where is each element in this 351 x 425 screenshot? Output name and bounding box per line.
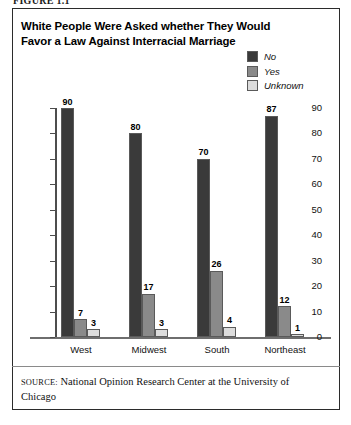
bar-rect <box>87 329 100 337</box>
legend-item-no: No <box>247 50 304 63</box>
bar-west-unknown: 3 <box>87 108 100 337</box>
bar-value-label: 26 <box>211 259 221 269</box>
bar-south-no: 70 <box>197 108 210 337</box>
bar-northeast-unknown: 1 <box>291 108 304 337</box>
legend-label: Unknown <box>264 80 304 91</box>
bar-value-label: 3 <box>91 318 96 328</box>
legend-swatch-icon <box>247 80 258 91</box>
y-tick-mark <box>50 337 55 338</box>
bar-rect <box>197 159 210 337</box>
bar-south-yes: 26 <box>210 108 223 337</box>
bar-rect <box>142 294 155 337</box>
legend-label: Yes <box>264 66 280 77</box>
bar-rect <box>155 329 168 337</box>
y-tick-mark <box>50 312 55 313</box>
x-tick-label: West <box>70 344 91 355</box>
bar-value-label: 90 <box>62 97 72 107</box>
bar-rect <box>291 334 304 337</box>
bar-rect <box>61 108 74 337</box>
y-tick-label: 0 <box>317 331 322 342</box>
y-tick-mark <box>50 108 55 109</box>
legend-label: No <box>264 51 276 62</box>
bar-rect <box>74 319 87 337</box>
bar-value-label: 12 <box>279 295 289 305</box>
source-note: SOURCE: National Opinion Research Center… <box>21 375 313 403</box>
bar-value-label: 1 <box>295 323 300 333</box>
y-tick-label: 80 <box>311 127 322 138</box>
plot-area: 0102030405060708090 9073West80173Midwest… <box>55 108 331 337</box>
bar-south-unknown: 4 <box>223 108 236 337</box>
bar-northeast-no: 87 <box>265 108 278 337</box>
y-tick-mark <box>50 286 55 287</box>
y-tick-label: 60 <box>311 178 322 189</box>
y-tick-label: 10 <box>311 306 322 317</box>
y-tick-mark <box>50 184 55 185</box>
y-tick-label: 40 <box>311 229 322 240</box>
legend-swatch-icon <box>247 66 258 77</box>
bar-value-label: 17 <box>143 282 153 292</box>
source-divider <box>12 366 340 367</box>
y-tick-label: 20 <box>311 280 322 291</box>
bar-value-label: 87 <box>266 104 276 114</box>
bar-west-yes: 7 <box>74 108 87 337</box>
y-tick-label: 30 <box>311 255 322 266</box>
bar-rect <box>210 271 223 337</box>
source-label: SOURCE: <box>21 378 58 387</box>
bar-value-label: 80 <box>130 122 140 132</box>
y-tick-label: 70 <box>311 153 322 164</box>
bar-value-label: 4 <box>227 315 232 325</box>
page-title: White People Were Asked whether They Wou… <box>21 19 293 48</box>
y-tick-mark <box>50 261 55 262</box>
bar-northeast-yes: 12 <box>278 108 291 337</box>
x-tick-label: Northeast <box>264 344 305 355</box>
x-axis-line <box>30 337 331 339</box>
bar-midwest-unknown: 3 <box>155 108 168 337</box>
bar-rect <box>265 116 278 337</box>
legend-item-unknown: Unknown <box>247 79 304 92</box>
x-tick-label: Midwest <box>132 344 167 355</box>
bar-midwest-yes: 17 <box>142 108 155 337</box>
bar-value-label: 3 <box>159 318 164 328</box>
y-tick-mark <box>50 210 55 211</box>
y-tick-mark <box>50 235 55 236</box>
y-axis-line <box>55 108 57 337</box>
legend-swatch-icon <box>247 51 258 62</box>
y-tick-mark <box>50 133 55 134</box>
bar-rect <box>223 327 236 337</box>
y-tick-mark <box>50 159 55 160</box>
bar-value-label: 7 <box>78 308 83 318</box>
legend-item-yes: Yes <box>247 65 304 78</box>
y-tick-label: 50 <box>311 204 322 215</box>
bar-rect <box>129 133 142 337</box>
bar-value-label: 70 <box>198 147 208 157</box>
bar-midwest-no: 80 <box>129 108 142 337</box>
source-text: National Opinion Research Center at the … <box>21 376 289 402</box>
figure-number-label: FIGURE 1.1 <box>13 0 70 6</box>
y-tick-label: 90 <box>311 102 322 113</box>
x-tick-label: South <box>205 344 230 355</box>
chart-legend: NoYesUnknown <box>247 50 304 94</box>
bar-rect <box>278 306 291 337</box>
bar-west-no: 90 <box>61 108 74 337</box>
